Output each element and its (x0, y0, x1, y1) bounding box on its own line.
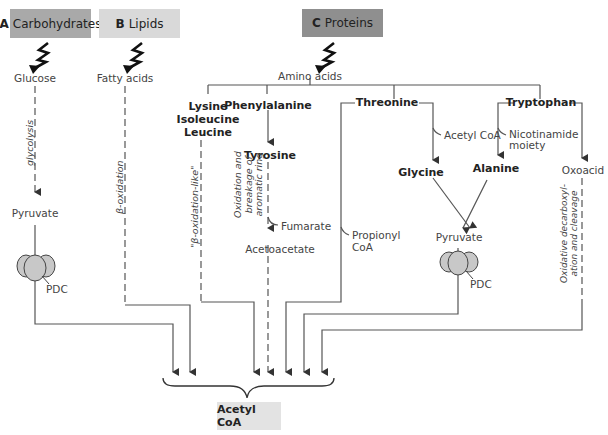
protein-pyruvate-label: Pyruvate (436, 231, 483, 243)
pdc-label: PDC (46, 283, 68, 295)
fatty-acids-label: Fatty acids (97, 72, 154, 84)
beta-oxidation-like-label: "β-oxidation-like" (189, 166, 200, 248)
oxidative-decarboxylation-label: Oxidative decarboxyl- ation and cleavage (559, 184, 579, 283)
phenylalanine-label: Phenylalanine (224, 100, 312, 112)
isoleucine-label: Isoleucine (177, 113, 240, 126)
ring-breakage-label: Oxidation and breakage of aromatic ring (233, 151, 265, 218)
acetoacetate-label: Acetoacetate (245, 243, 315, 255)
ring-breakage-line1: Oxidation and (233, 151, 244, 218)
propionyl-line1: Propionyl (352, 229, 400, 241)
beta-oxidation-label: β-oxidation (114, 160, 125, 214)
oxidative-line1: Oxidative decarboxyl- (559, 184, 569, 283)
propionyl-coa-label: Propionyl CoA (352, 229, 400, 253)
target-label: Acetyl CoA (217, 403, 281, 429)
threonine-label: Threonine (356, 97, 419, 109)
leucine-label: Leucine (177, 126, 240, 139)
oxoacid-label: Oxoacid (562, 164, 604, 176)
oxidative-line2: ation and cleavage (569, 184, 579, 283)
glycolysis-label: glycolysis (24, 120, 35, 166)
glycine-label: Glycine (398, 167, 444, 179)
pdc-complex-icon (440, 251, 478, 279)
pyruvate-label: Pyruvate (12, 207, 59, 219)
pdc-complex-icon (17, 255, 55, 284)
acetyl-coa-target-box: Acetyl CoA (217, 402, 281, 430)
alanine-label: Alanine (473, 163, 520, 175)
tryptophan-label: Tryptophan (506, 97, 577, 109)
pathway-lines (0, 0, 608, 435)
protein-pdc-label: PDC (470, 278, 492, 290)
amino-acids-label: Amino acids (278, 70, 342, 82)
acetyl-coa-side-label: Acetyl CoA (444, 129, 501, 141)
nicotinamide-line2: moiety (509, 140, 578, 151)
glucose-label: Glucose (14, 72, 56, 84)
fumarate-label: Fumarate (281, 220, 331, 232)
ring-breakage-line3: aromatic ring (254, 151, 265, 218)
lightning-arrow-icon (35, 43, 334, 68)
nicotinamide-label: Nicotinamide moiety (509, 129, 578, 151)
propionyl-line2: CoA (352, 241, 400, 253)
